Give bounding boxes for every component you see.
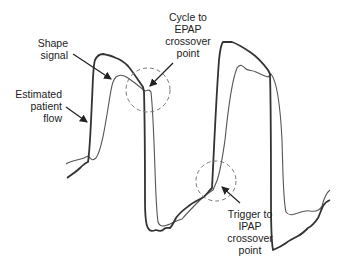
cycle-label-line1: Cycle to xyxy=(160,11,216,23)
estimated-flow-arrow xyxy=(66,107,87,122)
estimated-flow-label-line1: Estimated xyxy=(6,88,62,100)
shape-signal-arrow xyxy=(73,54,111,79)
shape-signal-label-line1: Shape xyxy=(30,37,68,49)
estimated-flow-label-line3: flow xyxy=(6,112,62,124)
shape-signal-label-line2: signal xyxy=(30,49,68,61)
cycle-label-line2: EPAP xyxy=(160,23,216,35)
estimated-flow-label: Estimated patient flow xyxy=(6,88,62,124)
estimated-flow-label-line2: patient xyxy=(6,100,62,112)
cycle-label-line3: crossover xyxy=(160,35,216,47)
trigger-label-line3: crossover xyxy=(222,232,278,244)
shape-signal-label: Shape signal xyxy=(30,37,68,61)
shape-signal-curve xyxy=(67,42,330,250)
trigger-label-line1: Trigger to xyxy=(222,208,278,220)
trigger-crossover-arrow xyxy=(222,187,240,203)
cycle-label-line4: point xyxy=(160,47,216,59)
trigger-label-line4: point xyxy=(222,244,278,256)
cycle-crossover-arrow xyxy=(150,63,173,86)
cycle-crossover-label: Cycle to EPAP crossover point xyxy=(160,11,216,59)
estimated-patient-flow-curve xyxy=(66,65,330,226)
trigger-crossover-label: Trigger to IPAP crossover point xyxy=(222,208,278,256)
trigger-crossover-circle xyxy=(196,161,236,201)
trigger-label-line2: IPAP xyxy=(222,220,278,232)
